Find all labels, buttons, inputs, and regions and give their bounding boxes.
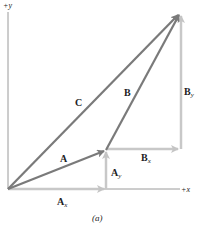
y-axis-label: +y (3, 1, 12, 10)
figure-caption: (a) (92, 213, 103, 223)
vector-a-label: A (60, 153, 68, 164)
x-axis-label: +x (181, 185, 190, 194)
ax-label: Ax (57, 196, 68, 209)
bx-label: Bx (141, 152, 152, 165)
vector-b-label: B (124, 87, 131, 98)
vector-diagram: +y +x C B A Ax Ay Bx By (a) (0, 0, 201, 228)
by-label: By (184, 86, 195, 99)
vector-a-arrow (8, 151, 104, 189)
vector-arrows (8, 15, 179, 189)
vector-c-arrow (8, 15, 178, 189)
vector-c-label: C (75, 97, 82, 108)
vector-b-arrow (106, 15, 179, 150)
ay-label: Ay (111, 167, 122, 180)
